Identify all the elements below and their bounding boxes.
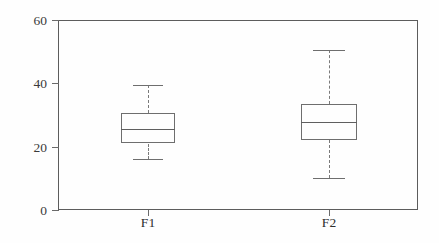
whisker-upper-cap [133,85,163,86]
x-tick-label-f2: F2 [322,216,336,230]
y-tick-label: 20 [34,141,53,155]
whisker-upper-cap [313,50,345,51]
x-tick-label-f1: F1 [141,216,155,230]
whisker-lower-line [148,144,149,160]
y-tick-20: 20 [52,147,59,148]
y-tick-60: 60 [52,20,59,21]
median-line [121,129,175,130]
y-tick-label: 0 [40,204,52,218]
whisker-lower-line [329,140,330,178]
y-axis-title-container: Temperatur / °C [14,20,36,210]
y-tick-0: 0 [52,210,59,211]
y-tick-label: 60 [34,14,53,28]
plot-area [58,20,418,210]
y-axis-title: Temperatur / °C [12,0,34,20]
y-tick-label: 40 [34,77,53,91]
whisker-lower-cap [133,159,163,160]
whisker-upper-line [148,85,149,114]
y-tick-40: 40 [52,83,59,84]
boxplot-chart: Temperatur / °C 0204060 F1F2 [0,0,439,243]
median-line [301,122,357,123]
whisker-upper-line [329,50,330,104]
whisker-lower-cap [313,178,345,179]
